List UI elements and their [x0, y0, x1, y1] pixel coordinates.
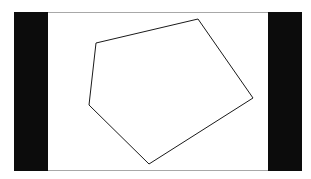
pentagon-shape	[89, 19, 253, 164]
diagram-canvas	[0, 0, 311, 179]
